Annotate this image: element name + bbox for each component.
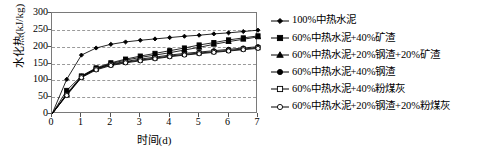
data-point [79, 76, 83, 80]
legend-item-3[interactable]: 60%中热水泥+40%钢渣 [270, 64, 478, 81]
data-point [197, 33, 201, 37]
y-tick-label: 200 [33, 41, 48, 51]
legend-label: 60%中热水泥+20%钢渣+20%矿渣 [292, 50, 440, 61]
data-point [138, 59, 142, 63]
data-point [182, 34, 186, 38]
data-point [277, 87, 282, 92]
open-circle-icon [270, 100, 290, 114]
plot-area: 水化热(kJ/kg) 050100150200250300 01234567 时… [0, 0, 268, 150]
legend-label: 100%中热水泥 [292, 15, 356, 26]
data-point [212, 50, 216, 54]
filled-square-icon [270, 31, 290, 45]
y-tick-label: 100 [33, 74, 48, 84]
data-point [212, 32, 216, 36]
filled-circle-icon [270, 65, 290, 79]
legend-item-1[interactable]: 60%中热水泥+40%矿渣 [270, 29, 478, 46]
data-point [153, 37, 157, 41]
legend-label: 60%中热水泥+40%钢渣 [292, 67, 395, 78]
x-tick-label: 6 [225, 117, 230, 127]
data-series-layer [52, 13, 258, 114]
x-tick-label: 2 [107, 117, 112, 127]
y-axis-tick-labels: 050100150200250300 [22, 12, 48, 113]
data-point [123, 61, 127, 65]
x-tick-label: 5 [196, 117, 201, 127]
x-tick-label: 1 [78, 117, 83, 127]
x-axis-title: 时间(d) [51, 131, 257, 147]
open-square-icon [270, 82, 290, 96]
plot-frame [51, 12, 257, 113]
legend: 100%中热水泥60%中热水泥+40%矿渣60%中热水泥+20%钢渣+20%矿渣… [270, 12, 478, 115]
x-tick-label: 4 [166, 117, 171, 127]
legend-item-0[interactable]: 100%中热水泥 [270, 12, 478, 29]
x-axis-tick-labels: 01234567 [51, 117, 257, 131]
chart-figure: 水化热(kJ/kg) 050100150200250300 01234567 时… [0, 0, 478, 150]
data-point [256, 46, 260, 50]
data-point [182, 53, 186, 57]
filled-diamond-icon [270, 14, 290, 28]
data-point [109, 42, 113, 46]
series-1 [52, 34, 260, 114]
legend-label: 60%中热水泥+40%粉煤灰 [292, 84, 405, 95]
data-point [226, 31, 230, 35]
x-tick-label: 0 [49, 117, 54, 127]
legend-label: 60%中热水泥+40%矿渣 [292, 33, 395, 44]
data-point [277, 18, 282, 23]
data-point [277, 104, 282, 109]
legend-item-2[interactable]: 60%中热水泥+20%钢渣+20%矿渣 [270, 46, 478, 63]
data-point [94, 46, 98, 50]
x-tick-label: 7 [255, 117, 260, 127]
filled-triangle-icon [270, 48, 290, 62]
data-point [277, 35, 282, 40]
data-point [256, 28, 260, 32]
data-point [168, 55, 172, 59]
data-point [65, 93, 69, 97]
data-point [109, 63, 113, 67]
data-point [153, 57, 157, 61]
data-point [168, 36, 172, 40]
data-point [79, 53, 83, 57]
data-point [226, 49, 230, 53]
data-point [277, 70, 282, 75]
legend-label: 60%中热水泥+20%钢渣+20%粉煤灰 [292, 101, 450, 112]
data-point [138, 38, 142, 42]
legend-item-5[interactable]: 60%中热水泥+20%钢渣+20%粉煤灰 [270, 98, 478, 115]
data-point [94, 68, 98, 72]
x-tick-label: 3 [137, 117, 142, 127]
y-tick-label: 150 [33, 58, 48, 68]
legend-item-4[interactable]: 60%中热水泥+40%粉煤灰 [270, 81, 478, 98]
data-point [241, 29, 245, 33]
data-point [197, 52, 201, 56]
y-tick-label: 300 [33, 7, 48, 17]
data-point [241, 48, 245, 52]
data-point [123, 40, 127, 44]
data-point [65, 77, 69, 81]
y-tick-label: 250 [33, 24, 48, 34]
